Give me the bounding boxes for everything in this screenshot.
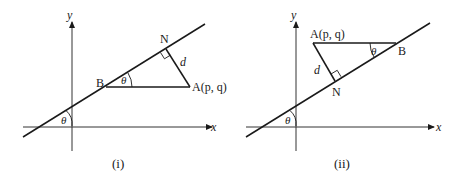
caption-i: (i) bbox=[112, 156, 124, 171]
angle-theta-axis: θ bbox=[285, 114, 291, 126]
angle-arc-y-intercept bbox=[290, 111, 296, 127]
diagram-canvas: x y B N A(p, q) d θ θ (i) x y bbox=[0, 0, 460, 181]
caption-ii: (ii) bbox=[334, 156, 350, 171]
y-axis-label: y bbox=[290, 8, 297, 22]
point-A-label: A(p, q) bbox=[192, 80, 227, 94]
x-axis-label: x bbox=[210, 120, 217, 134]
point-N-label: N bbox=[160, 32, 169, 46]
panel-i: x y B N A(p, q) d θ θ (i) bbox=[23, 8, 227, 171]
x-axis-label: x bbox=[435, 120, 442, 134]
distance-d-label: d bbox=[314, 63, 321, 77]
y-axis-label: y bbox=[66, 8, 73, 22]
point-A-label: A(p, q) bbox=[310, 27, 345, 41]
line-l bbox=[23, 24, 205, 137]
angle-theta-axis: θ bbox=[61, 114, 67, 126]
distance-d-label: d bbox=[180, 55, 187, 69]
point-N-label: N bbox=[332, 85, 341, 99]
point-B-label: B bbox=[398, 44, 406, 58]
panel-ii: x y A(p, q) B N d θ θ (ii) bbox=[246, 8, 442, 171]
segment-AN bbox=[166, 49, 190, 87]
angle-arc-y-intercept bbox=[66, 111, 72, 127]
angle-theta-B: θ bbox=[371, 45, 377, 57]
angle-arc-B bbox=[128, 73, 132, 87]
angle-theta-B: θ bbox=[121, 74, 127, 86]
point-B-label: B bbox=[96, 76, 104, 90]
